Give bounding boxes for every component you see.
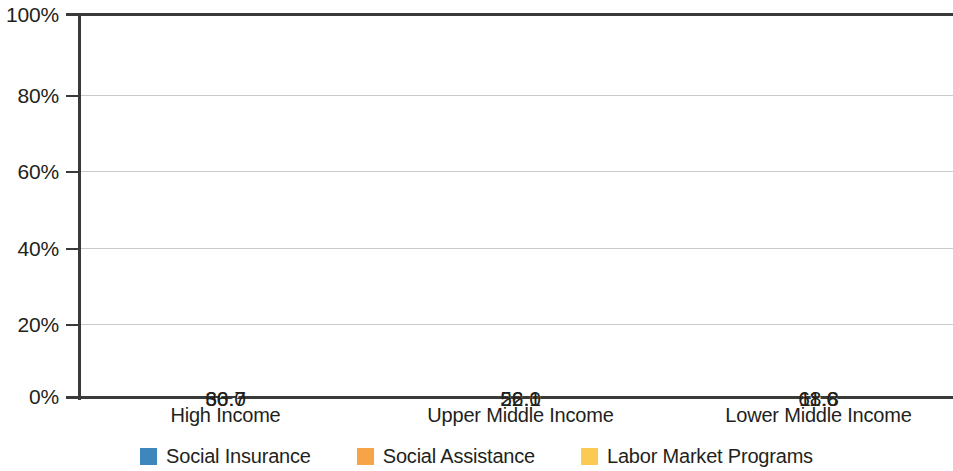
x-category-label-upper-middle-income: Upper Middle Income — [400, 404, 641, 427]
y-tick-label-40: 40% — [18, 237, 59, 261]
stacked-bar-chart: 100% 80% 60% 40% 20% 0% 3.3 60.0 36.7 22… — [0, 0, 953, 471]
legend-item-labor-market-programs[interactable]: Labor Market Programs — [581, 445, 813, 468]
x-category-label-lower-middle-income: Lower Middle Income — [698, 404, 939, 427]
plot-area: 3.3 60.0 36.7 22.0 56.1 22.0 19.6 — [78, 15, 953, 398]
legend-swatch-icon — [357, 448, 374, 465]
y-tick-label-0: 0% — [29, 385, 59, 409]
y-tick-label-80: 80% — [18, 84, 59, 108]
y-tick-label-20: 20% — [18, 313, 59, 337]
legend-label: Labor Market Programs — [607, 445, 813, 468]
legend-swatch-icon — [581, 448, 598, 465]
legend-label: Social Assistance — [383, 445, 535, 468]
legend-swatch-icon — [140, 448, 157, 465]
y-tick-label-60: 60% — [18, 160, 59, 184]
chart-legend: Social Insurance Social Assistance Labor… — [0, 441, 953, 471]
legend-item-social-assistance[interactable]: Social Assistance — [357, 445, 535, 468]
y-tick-label-100: 100% — [6, 3, 59, 27]
x-category-label-high-income: High Income — [105, 404, 346, 427]
legend-item-social-insurance[interactable]: Social Insurance — [140, 445, 311, 468]
legend-label: Social Insurance — [166, 445, 311, 468]
